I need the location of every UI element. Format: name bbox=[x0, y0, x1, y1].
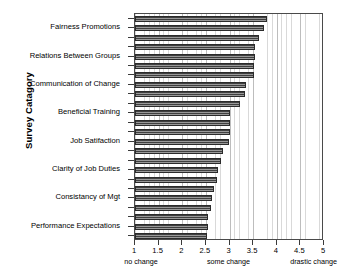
x-axis-tick-label: 3 bbox=[226, 246, 230, 255]
bar bbox=[135, 16, 267, 22]
y-axis-tick bbox=[128, 235, 134, 236]
y-axis-tick bbox=[128, 56, 134, 57]
category-label: Relations Between Groups bbox=[30, 52, 120, 60]
y-axis-tick bbox=[128, 197, 134, 198]
y-axis-tick bbox=[128, 93, 134, 94]
y-axis-tick bbox=[128, 179, 134, 180]
x-axis-tick bbox=[134, 240, 135, 245]
bar bbox=[135, 214, 208, 220]
bar bbox=[135, 148, 223, 154]
category-label: Beneficial Training bbox=[58, 108, 120, 116]
y-axis-tick bbox=[128, 160, 134, 161]
bar bbox=[135, 120, 230, 126]
bar bbox=[135, 139, 229, 145]
y-axis-tick bbox=[128, 103, 134, 104]
x-axis-tick bbox=[323, 240, 324, 245]
y-axis-tick bbox=[128, 131, 134, 132]
category-label: Communication of Change bbox=[30, 80, 120, 88]
y-axis-tick bbox=[128, 169, 134, 170]
bar bbox=[135, 186, 214, 192]
y-axis-tick bbox=[128, 18, 134, 19]
bar bbox=[135, 82, 246, 88]
x-axis-tick bbox=[205, 240, 206, 245]
x-axis-tick bbox=[299, 240, 300, 245]
x-axis-tick-label: 4.5 bbox=[294, 246, 305, 255]
bar bbox=[135, 101, 240, 107]
scale-annotation: drastic change bbox=[290, 257, 337, 266]
scale-annotation: no change bbox=[124, 257, 158, 266]
bar bbox=[135, 54, 255, 60]
y-axis-tick bbox=[128, 207, 134, 208]
x-axis-tick bbox=[181, 240, 182, 245]
bar bbox=[135, 91, 245, 97]
bars-layer bbox=[135, 14, 322, 239]
bar bbox=[135, 72, 254, 78]
x-axis-tick bbox=[252, 240, 253, 245]
y-axis-tick bbox=[128, 150, 134, 151]
y-axis-tick bbox=[128, 84, 134, 85]
y-axis-tick bbox=[128, 226, 134, 227]
y-axis-tick bbox=[128, 65, 134, 66]
x-axis-tick bbox=[158, 240, 159, 245]
y-axis-tick bbox=[128, 188, 134, 189]
bar bbox=[135, 195, 212, 201]
y-axis-tick bbox=[128, 122, 134, 123]
category-label: Performance Expectations bbox=[31, 222, 120, 230]
x-axis-tick-label: 2 bbox=[179, 246, 183, 255]
bar bbox=[135, 129, 230, 135]
y-axis-tick bbox=[128, 37, 134, 38]
x-axis-tick bbox=[229, 240, 230, 245]
x-axis-tick-label: 3.5 bbox=[247, 246, 258, 255]
x-axis-tick-label: 4 bbox=[274, 246, 278, 255]
scale-annotation: some change bbox=[207, 257, 250, 266]
survey-bar-chart: Survey Catagory Fairness PromotionsRelat… bbox=[0, 0, 352, 271]
category-label: Clarity of Job Duties bbox=[52, 165, 120, 173]
bar bbox=[135, 205, 211, 211]
bar bbox=[135, 177, 217, 183]
x-axis-tick-label: 2.5 bbox=[200, 246, 211, 255]
bar bbox=[135, 25, 264, 31]
bar bbox=[135, 233, 207, 239]
y-axis-tick bbox=[128, 27, 134, 28]
bar bbox=[135, 158, 221, 164]
y-axis-tick bbox=[128, 216, 134, 217]
x-axis-tick-label: 5 bbox=[321, 246, 325, 255]
plot-area bbox=[134, 13, 323, 240]
category-label-column: Fairness PromotionsRelations Between Gro… bbox=[2, 13, 127, 240]
bar bbox=[135, 44, 255, 50]
y-axis-tick bbox=[128, 46, 134, 47]
bar bbox=[135, 63, 254, 69]
category-label: Consistancy of Mgt bbox=[55, 193, 120, 201]
category-label: Job Satifaction bbox=[70, 137, 120, 145]
bar bbox=[135, 167, 218, 173]
y-axis-tick bbox=[128, 112, 134, 113]
bar bbox=[135, 224, 208, 230]
category-label: Fairness Promotions bbox=[50, 23, 120, 31]
x-axis-tick bbox=[276, 240, 277, 245]
y-axis-tick bbox=[128, 74, 134, 75]
bar bbox=[135, 110, 230, 116]
x-axis-tick-label: 1 bbox=[132, 246, 136, 255]
x-axis-tick-label: 1.5 bbox=[152, 246, 163, 255]
bar bbox=[135, 35, 259, 41]
y-axis-tick bbox=[128, 141, 134, 142]
